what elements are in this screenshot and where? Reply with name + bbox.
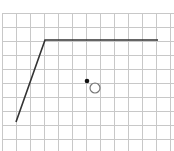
hollow-circle: [90, 83, 100, 93]
diagram-canvas: [0, 0, 174, 151]
filled-dot: [85, 79, 90, 84]
grid-diagram: [0, 0, 174, 151]
